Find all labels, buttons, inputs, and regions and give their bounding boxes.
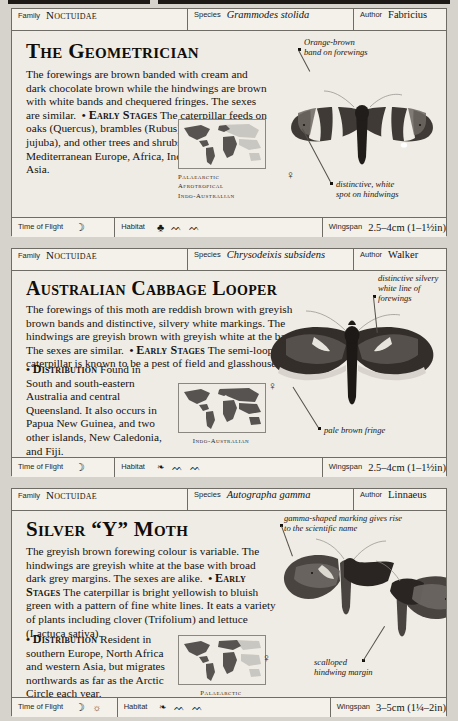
- bullet-marker: •: [26, 363, 33, 375]
- entry-body: The Geometrician The forewings are brown…: [12, 31, 446, 217]
- map-caption: Palaearctic: [178, 688, 264, 697]
- wingspan-label: Wingspan: [337, 702, 370, 711]
- entry-body: Australian Cabbage Looper The forewings …: [12, 271, 446, 457]
- habitat-label: Habitat: [121, 462, 145, 471]
- distribution-label: Distribution: [33, 362, 98, 376]
- species-cell: Species Grammodes stolida: [188, 9, 354, 30]
- time-of-flight-cell: Time of Flight ☽: [12, 218, 115, 237]
- author-value: Fabricius: [388, 9, 427, 20]
- wingspan-value: 3–5cm (1¼–2in): [376, 702, 446, 713]
- distribution-block: • Distribution Found in South and south-…: [26, 363, 168, 457]
- grass-icon: ᨓ: [172, 463, 183, 472]
- page-title: Australian Cabbage Looper: [26, 277, 277, 300]
- sex-symbol: ♀: [286, 168, 295, 183]
- wingspan-label: Wingspan: [329, 462, 362, 471]
- map-region: Afrotropical: [178, 181, 264, 190]
- callout-label: distinctive, white spot on hindwings: [336, 179, 399, 199]
- grass-icon: ᨓ: [189, 223, 200, 232]
- early-stages-text: The caterpillar is bright yellowish to b…: [26, 586, 276, 639]
- map-region: Indo-Australian: [178, 191, 264, 200]
- sex-symbol: ♀: [262, 651, 271, 666]
- moth-illustration: [262, 301, 442, 431]
- entry-header: Family Noctuidae Species Autographa gamm…: [12, 489, 446, 511]
- grass-icon: ᨓ: [174, 703, 185, 712]
- tree-icon: ♣: [157, 222, 164, 233]
- page-title: The Geometrician: [26, 39, 199, 64]
- field-guide-page: Family Noctuidae Species Grammodes stoli…: [0, 0, 458, 721]
- sex-symbol: ♀: [268, 379, 277, 394]
- family-label: Family: [18, 11, 40, 20]
- time-of-flight-icons: ☽: [75, 222, 85, 233]
- callout-label: distinctive silvery white line of forewi…: [378, 273, 438, 304]
- species-cell: Species Chrysodeixis subsidens: [188, 249, 354, 270]
- wingspan-cell: Wingspan 2.5–4cm (1–1½in): [323, 218, 446, 237]
- world-map: [178, 383, 266, 433]
- bullet-marker: •: [26, 633, 33, 645]
- callout-label: pale brown fringe: [324, 425, 385, 435]
- species-cell: Species Autographa gamma: [188, 489, 354, 510]
- habitat-label: Habitat: [124, 702, 148, 711]
- distribution-text: Found in South and south-eastern Austral…: [26, 363, 162, 457]
- time-of-flight-label: Time of Flight: [18, 222, 63, 231]
- wingspan-value: 2.5–4cm (1–1½in): [368, 222, 446, 233]
- map-caption: Palaearctic Afrotropical Indo-Australian: [178, 172, 264, 200]
- early-stages-label: Early Stages: [89, 108, 158, 122]
- bullet-marker: •: [127, 344, 137, 356]
- callout-label: gamma-shaped marking gives rise to the s…: [284, 513, 402, 533]
- wingspan-cell: Wingspan 3–5cm (1¼–2in): [331, 698, 446, 717]
- bullet-marker: •: [79, 109, 89, 121]
- family-cell: Family Noctuidae: [12, 489, 188, 510]
- wingspan-cell: Wingspan 2.5–4cm (1–1½in): [323, 458, 446, 477]
- grass-icon: ᨓ: [190, 463, 201, 472]
- author-label: Author: [360, 10, 382, 19]
- entry-footer: Time of Flight ☽ ☼ Habitat ❧ ᨓ ᨓ Wingspa…: [12, 697, 446, 717]
- leaf-icon: ❧: [159, 703, 167, 712]
- leaf-icon: ❧: [157, 463, 165, 472]
- moon-icon: ☽: [75, 222, 85, 233]
- map-region: Palaearctic: [178, 688, 264, 697]
- author-label: Author: [360, 490, 382, 499]
- time-of-flight-icons: ☽ ☼: [75, 702, 101, 713]
- habitat-cell: Habitat ♣ ᨓ ᨓ: [115, 218, 323, 237]
- time-of-flight-label: Time of Flight: [18, 702, 63, 711]
- distribution-label: Distribution: [33, 632, 98, 646]
- moon-icon: ☽: [75, 462, 85, 473]
- entry-footer: Time of Flight ☽ Habitat ❧ ᨓ ᨓ Wingspan …: [12, 457, 446, 477]
- species-entry: Family Noctuidae Species Autographa gamm…: [11, 488, 447, 716]
- distribution-map-block: Palaearctic: [178, 635, 264, 697]
- bullet-marker: •: [205, 572, 215, 584]
- author-label: Author: [360, 250, 382, 259]
- grass-icon: ᨓ: [171, 223, 182, 232]
- species-entry: Family Noctuidae Species Grammodes stoli…: [11, 8, 447, 236]
- page-top-rule-gap: [150, 0, 158, 4]
- callout-dot: [330, 182, 333, 185]
- species-value: Autographa gamma: [227, 489, 311, 500]
- habitat-icons: ❧ ᨓ ᨓ: [157, 463, 201, 472]
- habitat-icons: ♣ ᨓ ᨓ: [157, 222, 200, 233]
- grass-icon: ᨓ: [192, 703, 203, 712]
- wingspan-value: 2.5–4cm (1–1½in): [368, 462, 446, 473]
- habitat-label: Habitat: [121, 222, 145, 231]
- family-value: Noctuidae: [46, 249, 97, 261]
- time-of-flight-icons: ☽: [75, 462, 85, 473]
- habitat-icons: ❧ ᨓ ᨓ: [159, 703, 203, 712]
- entry-footer: Time of Flight ☽ Habitat ♣ ᨓ ᨓ Wingspan …: [12, 217, 446, 237]
- world-map: [178, 119, 266, 169]
- family-label: Family: [18, 491, 40, 500]
- distribution-map-block: Palaearctic Afrotropical Indo-Australian: [178, 119, 264, 200]
- species-label: Species: [194, 10, 221, 19]
- map-caption: Indo-Australian: [178, 436, 264, 445]
- distribution-block: • Distribution Resident in southern Euro…: [26, 633, 172, 697]
- author-value: Walker: [388, 249, 418, 260]
- entry-body: Silver “Y” Moth The greyish brown forewi…: [12, 511, 446, 697]
- map-region: Indo-Australian: [178, 436, 264, 445]
- sun-icon: ☼: [92, 703, 101, 713]
- callout-label: Orange-brown band on forewings: [304, 37, 368, 57]
- family-value: Noctuidae: [46, 9, 97, 21]
- time-of-flight-cell: Time of Flight ☽ ☼: [12, 698, 118, 717]
- author-cell: Author Fabricius: [354, 9, 446, 30]
- page-title: Silver “Y” Moth: [26, 517, 188, 542]
- early-stages-label: Early Stages: [136, 343, 205, 357]
- time-of-flight-cell: Time of Flight ☽: [12, 458, 115, 477]
- entry-header: Family Noctuidae Species Grammodes stoli…: [12, 9, 446, 31]
